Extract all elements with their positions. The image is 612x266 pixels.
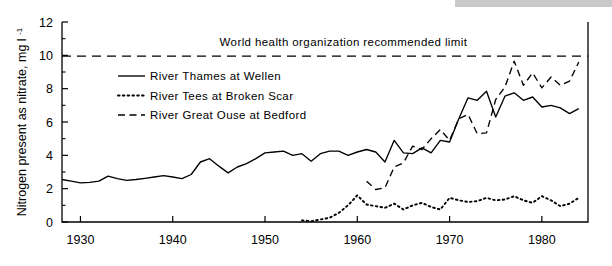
who-limit-label: World health organization recommended li…	[220, 36, 468, 48]
legend-label-3: River Great Ouse at Bedford	[150, 109, 307, 121]
x-tick-label: 1940	[159, 233, 187, 247]
legend-label-1: River Thames at Wellen	[150, 70, 281, 82]
series-line-1	[62, 91, 579, 183]
series-line-3	[367, 61, 579, 189]
y-axis-title: Nitrogen present as nitrate, mg l -1	[15, 27, 29, 216]
x-tick-label: 1930	[67, 233, 95, 247]
nitrate-trend-line-chart: 024681012193019401950196019701980Nitroge…	[0, 0, 612, 266]
y-tick-label: 2	[46, 182, 53, 196]
y-tick-label: 10	[39, 49, 53, 63]
series-line-2	[302, 195, 579, 221]
y-tick-label: 0	[46, 216, 53, 230]
y-tick-label: 12	[39, 16, 53, 30]
y-axis-title-superscript: -1	[15, 27, 24, 35]
y-tick-label: 8	[46, 82, 53, 96]
plot-frame	[62, 22, 588, 222]
x-tick-label: 1960	[343, 233, 371, 247]
chart-figure: 024681012193019401950196019701980Nitroge…	[0, 0, 612, 266]
x-tick-label: 1980	[528, 233, 556, 247]
x-tick-label: 1970	[436, 233, 464, 247]
y-tick-label: 4	[46, 149, 53, 163]
legend-label-2: River Tees at Broken Scar	[150, 90, 293, 102]
y-tick-label: 6	[46, 116, 53, 130]
x-tick-label: 1950	[251, 233, 279, 247]
